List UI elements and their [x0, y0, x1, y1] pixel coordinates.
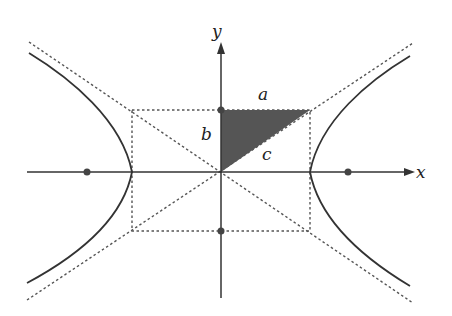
focus-right [345, 169, 352, 176]
y-axis-label: y [211, 21, 222, 41]
points [84, 107, 352, 235]
hyperbola-diagram: y x a b c [0, 0, 452, 316]
x-axis-arrow-icon [404, 168, 415, 176]
hypotenuse-c-label: c [262, 144, 272, 164]
covertex-bottom [218, 228, 225, 235]
hyperbola [27, 53, 410, 286]
hyperbola-left-branch [27, 53, 132, 283]
side-b-label: b [201, 124, 212, 144]
hyperbola-right-branch [310, 56, 410, 286]
covertex-top [218, 107, 225, 114]
x-axis-label: x [416, 162, 426, 182]
focus-left [84, 169, 91, 176]
side-a-label: a [258, 84, 268, 104]
y-axis-arrow-icon [217, 42, 225, 54]
